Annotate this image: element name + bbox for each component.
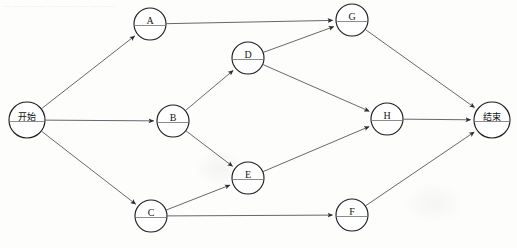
node-D-label: D — [244, 49, 251, 60]
edge-F-to-end — [366, 132, 475, 206]
node-G-label: G — [348, 11, 355, 22]
edge-G-to-end — [365, 30, 474, 108]
node-start-label: 开始 — [18, 111, 36, 122]
node-B[interactable]: B — [157, 105, 189, 137]
edge-A-to-G — [166, 20, 332, 23]
edge-C-to-F — [167, 215, 332, 216]
edge-D-to-G — [263, 27, 333, 53]
node-A[interactable]: A — [134, 8, 166, 40]
node-C[interactable]: C — [135, 200, 167, 232]
node-C-label: C — [148, 207, 155, 218]
node-end[interactable]: 结束 — [474, 102, 510, 138]
edge-D-to-H — [263, 65, 369, 112]
edge-start-to-B — [45, 120, 153, 121]
node-F-label: F — [349, 206, 355, 217]
edge-B-to-D — [186, 71, 233, 111]
node-F[interactable]: F — [336, 199, 368, 231]
node-layer: 开始ABCDEGHF结束 — [9, 4, 510, 232]
flow-graph: 开始ABCDEGHF结束 — [0, 0, 517, 248]
edge-H-to-end — [403, 119, 470, 120]
node-B-label: B — [170, 112, 177, 123]
node-G[interactable]: G — [336, 4, 368, 36]
node-E-label: E — [245, 169, 251, 180]
edge-B-to-E — [186, 131, 232, 166]
edge-start-to-C — [42, 131, 136, 204]
edge-start-to-A — [42, 36, 135, 109]
node-end-label: 结束 — [483, 111, 501, 122]
edge-E-to-H — [263, 127, 369, 172]
node-D[interactable]: D — [232, 42, 264, 74]
edge-C-to-E — [166, 185, 229, 210]
node-E[interactable]: E — [232, 162, 264, 194]
node-H-label: H — [383, 110, 390, 121]
diagram-canvas: 一一一一一一一一一一一一一 开始ABCDEGHF结束 — [0, 0, 517, 248]
node-H[interactable]: H — [371, 103, 403, 135]
node-start[interactable]: 开始 — [9, 102, 45, 138]
node-A-label: A — [146, 15, 154, 26]
